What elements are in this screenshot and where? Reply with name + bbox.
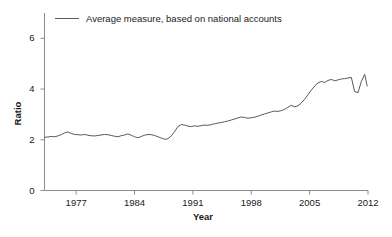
- y-axis-ticks: [41, 38, 45, 190]
- y-axis-title: Ratio: [12, 88, 23, 140]
- legend-entry-label: Average measure, based on national accou…: [86, 13, 282, 24]
- y-tick-label: 6: [19, 32, 35, 43]
- x-tick-label: 1998: [231, 197, 271, 208]
- x-tick-label: 1991: [173, 197, 213, 208]
- chart-container: 0246 197719841991199820052012 Ratio Year…: [0, 0, 392, 237]
- x-tick-label: 1984: [115, 197, 155, 208]
- chart-legend: Average measure, based on national accou…: [55, 13, 282, 24]
- data-line-average-measure: [45, 74, 368, 139]
- x-tick-label: 1977: [56, 197, 96, 208]
- y-tick-label: 0: [19, 185, 35, 196]
- x-axis-title: Year: [173, 211, 233, 222]
- legend-line-swatch: [55, 18, 79, 19]
- x-tick-label: 2012: [348, 197, 388, 208]
- x-axis-ticks: [76, 191, 368, 195]
- x-tick-label: 2005: [290, 197, 330, 208]
